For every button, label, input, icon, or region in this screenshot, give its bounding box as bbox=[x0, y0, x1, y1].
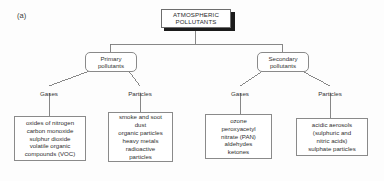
label-secondary-gases: Gases bbox=[231, 90, 249, 97]
leaf-box-secondary-particles: acidic aerosols(sulphuric andnitric acid… bbox=[296, 118, 368, 156]
leaf-box-primary-gases-line-2: carbon monoxide bbox=[27, 127, 74, 135]
leaf-box-primary-particles-line-2: dust bbox=[135, 121, 147, 129]
node-secondary-line1: Secondary bbox=[268, 55, 297, 62]
leaf-box-primary-particles-line-1: smoke and soot bbox=[119, 113, 162, 121]
node-primary-line1: Primary bbox=[101, 55, 122, 62]
root-node-box: ATMOSPHERIC POLLUTANTS bbox=[161, 9, 231, 28]
leaf-box-primary-gases-line-3: sulphur dioxide bbox=[30, 135, 71, 143]
leaf-box-secondary-gases-line-1: ozone bbox=[230, 117, 247, 125]
leaf-box-secondary-particles-line-1: acidic aerosols bbox=[312, 121, 352, 129]
leaf-box-primary-particles-line-4: heavy metals bbox=[123, 137, 159, 145]
diagram-canvas: (a) ATMOSPHERIC POLLUTANTS Primary pollu… bbox=[0, 0, 384, 181]
leaf-box-secondary-gases-line-4: aldehydes bbox=[225, 140, 253, 148]
leaf-box-primary-particles: smoke and sootdustorganic particlesheavy… bbox=[108, 112, 173, 162]
leaf-box-secondary-particles-line-2: (sulphuric and bbox=[313, 129, 351, 137]
leaf-box-primary-particles-line-5: radioactive bbox=[126, 145, 155, 153]
wire-secondary-to-gases bbox=[240, 70, 264, 86]
node-primary-pollutants: Primary pollutants bbox=[85, 52, 137, 72]
root-node-line2: POLLUTANTS bbox=[175, 19, 216, 26]
leaf-box-secondary-gases-line-2: peroxyacetyl bbox=[221, 125, 255, 133]
leaf-box-primary-particles-line-3: organic particles bbox=[118, 129, 162, 137]
leaf-box-primary-gases-line-1: oxides of nitrogen bbox=[26, 119, 74, 127]
label-secondary-particles: Particles bbox=[318, 90, 342, 97]
node-primary-line2: pollutants bbox=[98, 62, 124, 69]
leaf-box-primary-gases-line-4: volatile organic bbox=[30, 142, 71, 150]
root-node-atmospheric-pollutants: ATMOSPHERIC POLLUTANTS bbox=[161, 9, 235, 31]
leaf-box-secondary-gases: ozoneperoxyacetylnitrate (PAN)aldehydesk… bbox=[205, 114, 272, 159]
leaf-box-primary-gases-line-5: compounds (VOC) bbox=[25, 150, 75, 158]
wire-primary-to-gases bbox=[49, 70, 92, 86]
figure-label: (a) bbox=[17, 11, 26, 20]
leaf-box-secondary-particles-line-4: sulphate particles bbox=[308, 145, 355, 153]
label-primary-particles: Particles bbox=[128, 90, 152, 97]
wire-primary-to-particles bbox=[128, 70, 140, 86]
wire-secondary-to-particles bbox=[300, 70, 330, 86]
leaf-box-secondary-particles-line-3: nitric acids) bbox=[317, 137, 348, 145]
label-primary-gases: Gases bbox=[40, 90, 58, 97]
leaf-box-primary-gases: oxides of nitrogencarbon monoxidesulphur… bbox=[14, 116, 86, 161]
node-secondary-line2: pollutants bbox=[270, 62, 296, 69]
node-secondary-pollutants: Secondary pollutants bbox=[257, 52, 309, 72]
leaf-box-secondary-gases-line-5: ketones bbox=[228, 148, 249, 156]
leaf-box-secondary-gases-line-3: nitrate (PAN) bbox=[221, 133, 256, 141]
leaf-box-primary-particles-line-6: particles bbox=[129, 153, 152, 161]
